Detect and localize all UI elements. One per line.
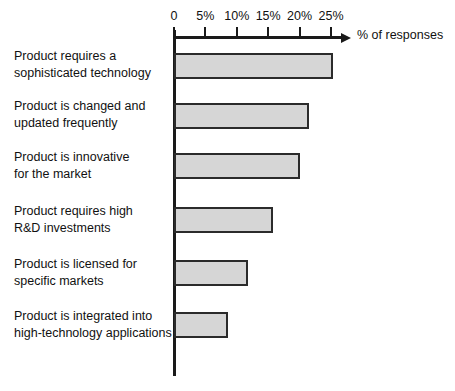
tick-mark-15: [267, 27, 269, 36]
tick-label-25: 25%: [318, 9, 343, 23]
tick-mark-0: [173, 27, 175, 36]
bar-chart: 0 5% 10% 15% 20% 25% % of responses Prod…: [0, 0, 455, 391]
tick-label-10: 10%: [224, 9, 249, 23]
x-axis-arrow-icon: [341, 33, 351, 43]
bar-1: [174, 103, 309, 129]
tick-label-5: 5%: [196, 9, 214, 23]
category-label-5: Product is integrated into high-technolo…: [14, 308, 172, 342]
x-axis-line: [173, 36, 343, 39]
category-label-3: Product requires high R&D investments: [14, 203, 133, 237]
tick-mark-5: [204, 27, 206, 36]
tick-mark-20: [299, 27, 301, 36]
tick-mark-25: [330, 27, 332, 36]
bar-3: [174, 207, 273, 233]
tick-label-15: 15%: [256, 9, 281, 23]
x-axis-title: % of responses: [357, 28, 443, 42]
bar-4: [174, 260, 248, 286]
category-label-2: Product is innovative for the market: [14, 149, 129, 183]
bar-2: [174, 153, 300, 179]
tick-label-0: 0: [171, 9, 178, 23]
bar-0: [174, 53, 333, 79]
category-label-0: Product requires a sophisticated technol…: [14, 48, 151, 82]
bar-5: [174, 312, 228, 338]
category-label-4: Product is licensed for specific markets: [14, 256, 137, 290]
tick-mark-10: [236, 27, 238, 36]
tick-label-20: 20%: [287, 9, 312, 23]
category-label-1: Product is changed and updated frequentl…: [14, 98, 145, 132]
